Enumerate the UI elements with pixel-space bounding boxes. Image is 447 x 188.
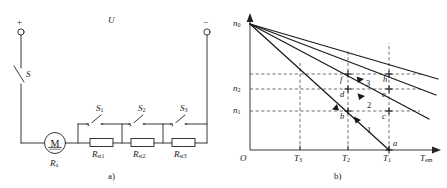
resistor-st1-body <box>90 139 113 147</box>
point-label-d: d <box>340 90 344 99</box>
switch-s3-label: S3 <box>180 104 188 113</box>
ytick-label-n2: n2 <box>233 84 241 93</box>
resistor-st1-subscript: st1 <box>98 153 105 159</box>
arrow-curve1-b-to-a <box>354 117 361 124</box>
switch-s2-subscript: 2 <box>143 107 146 113</box>
guide-lines <box>250 43 424 150</box>
motor-resistance-subscript: a <box>56 162 59 168</box>
point-label-a: a <box>393 139 397 148</box>
arrow-b-to-d <box>332 104 339 111</box>
xtick-label-t2: T2 <box>342 154 350 163</box>
arrow-curve2-d-to-c <box>358 93 366 100</box>
resistor-st3-label: Rst3 <box>174 150 187 159</box>
ytick-n0-subscript: 0 <box>238 22 241 28</box>
point-label-c: c <box>382 112 386 121</box>
motor-letter: M <box>51 138 60 149</box>
positive-terminal-node <box>18 29 24 35</box>
transition-arrow-markers <box>332 76 365 123</box>
speed-torque-chart-panel: n0 n2 n1 O T3 T2 T1 Tem a b c d e f h 1 … <box>224 0 447 188</box>
x-axis-title: Tem <box>420 154 432 163</box>
resistor-st2-label: Rst2 <box>133 150 146 159</box>
resistor-st2-subscript: st2 <box>139 153 146 159</box>
x-axis-title-subscript: em <box>425 157 432 163</box>
curve-3 <box>250 24 436 95</box>
curve-number-3: 3 <box>366 79 370 88</box>
circuit-schematic: M <box>0 0 224 188</box>
resistor-st3-subscript: st3 <box>180 153 187 159</box>
curve-4 <box>250 24 438 79</box>
xtick-t1-subscript: 1 <box>388 157 391 163</box>
panel-b-caption: b) <box>334 172 342 181</box>
xtick-t2-subscript: 2 <box>347 157 350 163</box>
ytick-n2-subscript: 2 <box>238 87 241 93</box>
supply-voltage-label: U <box>108 16 115 25</box>
point-label-e: e <box>382 90 386 99</box>
switch-s2-label: S2 <box>138 104 146 113</box>
main-switch-blade <box>14 66 24 82</box>
curve-number-2: 2 <box>367 101 371 110</box>
negative-terminal-label: − <box>203 18 208 27</box>
ytick-n1-subscript: 1 <box>238 109 241 115</box>
origin-label: O <box>240 154 247 163</box>
speed-torque-plot <box>224 0 447 188</box>
switch-s1-subscript: 1 <box>101 107 104 113</box>
xtick-label-t3: T3 <box>294 154 302 163</box>
switch-s1-label: S1 <box>96 104 104 113</box>
figure-root: M U + − S Ra S1 S2 S3 Rst1 Rst2 Rst3 a) <box>0 0 447 188</box>
resistor-st2-body <box>131 139 154 147</box>
point-label-f: f <box>340 75 342 84</box>
resistor-st1-label: Rst1 <box>92 150 105 159</box>
point-label-h: h <box>383 75 387 84</box>
point-label-b: b <box>340 112 344 121</box>
ytick-label-n1: n1 <box>233 106 241 115</box>
motor-resistance-label: Ra <box>50 159 58 168</box>
resistor-st3-body <box>172 139 195 147</box>
x-axis-arrowhead <box>432 147 441 154</box>
main-switch-label: S <box>26 70 31 79</box>
xtick-label-t1: T1 <box>383 154 391 163</box>
panel-a-caption: a) <box>108 172 115 181</box>
ytick-label-n0: n0 <box>233 19 241 28</box>
xtick-t3-subscript: 3 <box>299 157 302 163</box>
y-axis-arrowhead <box>247 13 254 22</box>
positive-terminal-label: + <box>17 18 22 27</box>
switch-s3-subscript: 3 <box>185 107 188 113</box>
curve-number-1: 1 <box>367 126 371 135</box>
negative-terminal-node <box>204 29 210 35</box>
circuit-diagram-panel: M U + − S Ra S1 S2 S3 Rst1 Rst2 Rst3 a) <box>0 0 224 188</box>
